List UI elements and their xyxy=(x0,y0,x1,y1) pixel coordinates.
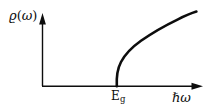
x-axis-label: ℏω xyxy=(172,91,191,104)
x-axis-arrowhead xyxy=(192,83,204,90)
tick-label-subscript: g xyxy=(120,94,125,104)
y-axis-arrowhead xyxy=(39,13,46,25)
y-axis-label: ϱ(ω) xyxy=(9,9,37,22)
dos-curve xyxy=(117,12,197,87)
y-axis-label-rho: ϱ xyxy=(9,8,17,23)
density-of-states-figure: ϱ(ω) ℏω Eg xyxy=(0,0,212,110)
y-axis-label-omega: ω xyxy=(22,8,33,23)
x-axis-tick-label-eg: Eg xyxy=(111,90,125,104)
tick-label-base: E xyxy=(111,89,120,103)
y-axis-label-close-paren: ) xyxy=(32,8,37,23)
